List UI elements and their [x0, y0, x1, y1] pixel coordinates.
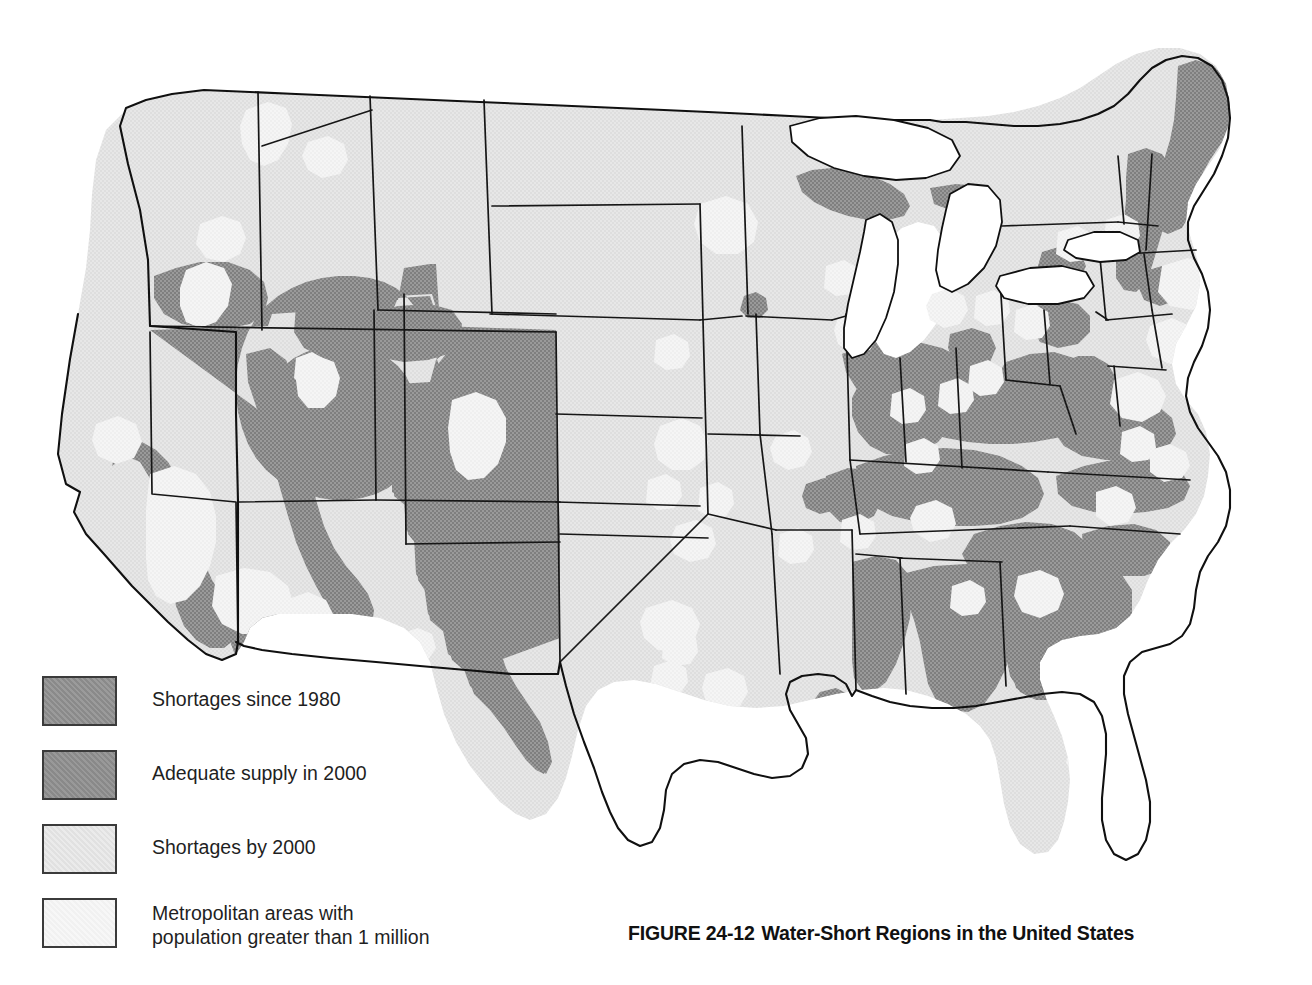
- figure-container: Shortages since 1980 Adequate supply in …: [0, 0, 1312, 985]
- legend-item-shortages-by-2000: Shortages by 2000: [42, 824, 472, 898]
- metro-sandiego: [248, 626, 294, 666]
- metro-neworleans: [832, 696, 876, 734]
- metro-orlando-tampa: [1066, 738, 1118, 786]
- legend-item-adequate-supply-2000: Adequate supply in 2000: [42, 750, 472, 824]
- legend-item-metro-areas: Metropolitan areas with population great…: [42, 898, 472, 972]
- legend-item-shortages-since-1980: Shortages since 1980: [42, 676, 472, 750]
- figure-caption-number: FIGURE 24-12: [628, 922, 755, 944]
- legend-swatch-shortages-by-2000: [42, 824, 117, 874]
- metro-miami: [1110, 796, 1146, 832]
- figure-caption-title: Water-Short Regions in the United States: [762, 922, 1135, 944]
- legend-label-shortages-by-2000: Shortages by 2000: [152, 824, 316, 859]
- cropped-page-artifact: [40, 0, 340, 7]
- region-florida-interior: [1070, 720, 1124, 810]
- region-western-colorado: [366, 304, 462, 362]
- metro-boston: [1200, 208, 1248, 252]
- legend-swatch-shortages-since-1980: [42, 676, 117, 726]
- legend-label-metro-areas: Metropolitan areas with population great…: [152, 898, 430, 949]
- region-ozarks: [802, 478, 842, 514]
- region-florida-panhandle-edge: [1012, 650, 1066, 698]
- legend-label-adequate-supply-2000: Adequate supply in 2000: [152, 750, 367, 785]
- legend-label-shortages-since-1980: Shortages since 1980: [152, 676, 341, 711]
- figure-caption: FIGURE 24-12Water-Short Regions in the U…: [628, 922, 1134, 945]
- map-legend: Shortages since 1980 Adequate supply in …: [42, 676, 472, 972]
- legend-swatch-metro-areas: [42, 898, 117, 948]
- legend-swatch-adequate-supply-2000: [42, 750, 117, 800]
